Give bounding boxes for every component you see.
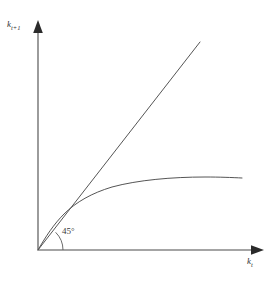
y-axis-label-subscript: t+1	[11, 24, 20, 31]
y-axis-label: kt+1	[7, 20, 20, 31]
forty-five-degree-line	[38, 42, 200, 250]
x-axis-label-subscript: t	[251, 261, 253, 268]
y-axis-arrowhead-icon	[33, 20, 43, 33]
x-axis-label: kt	[247, 257, 253, 268]
x-axis-arrowhead-icon	[251, 245, 264, 255]
angle-label: 45°	[62, 227, 75, 236]
capital-accumulation-curve	[38, 177, 242, 250]
diagram-canvas	[0, 0, 279, 281]
figure-container: kt+1 kt 45°	[0, 0, 279, 281]
